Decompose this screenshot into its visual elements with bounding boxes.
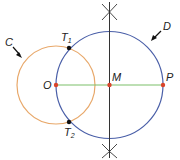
label-p: P: [166, 71, 174, 83]
label-o: O: [43, 79, 52, 91]
point-m: [107, 83, 111, 87]
arrow-d-icon: [151, 31, 161, 41]
point-o: [54, 83, 58, 87]
label-m: M: [112, 71, 122, 83]
label-t1: T1: [61, 31, 72, 44]
point-p: [161, 83, 165, 87]
arrow-c-icon: [13, 47, 22, 58]
point-t1: [67, 46, 71, 50]
label-d: D: [163, 20, 171, 32]
point-t2: [67, 120, 71, 124]
tangent-construction-diagram: O M P T1 T2 C D: [0, 0, 180, 160]
label-t2: T2: [64, 126, 75, 139]
label-c: C: [5, 36, 13, 48]
